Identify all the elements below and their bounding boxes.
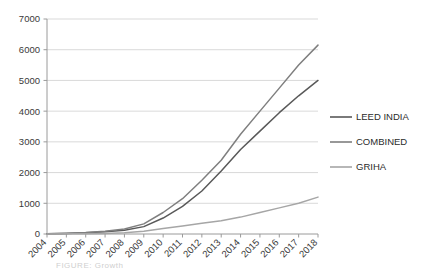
x-tick-label: 2008	[103, 237, 126, 260]
y-tick-label: 4000	[19, 106, 40, 117]
x-tick-label: 2009	[122, 237, 145, 260]
chart-legend: LEED INDIACOMBINEDGRIHA	[330, 111, 409, 172]
x-tick-label: 2010	[142, 237, 165, 260]
x-tick-label: 2005	[45, 237, 68, 260]
y-tick-label: 6000	[19, 44, 40, 55]
x-tick-label: 2004	[26, 237, 49, 260]
x-tick-label: 2016	[258, 237, 281, 260]
figure-caption: FIGURE: Growth	[56, 261, 123, 272]
x-axis	[47, 234, 318, 238]
legend-label: LEED INDIA	[356, 111, 409, 122]
x-tick-label: 2006	[64, 237, 87, 260]
y-axis-tick-labels: 01000200030004000500060007000	[19, 13, 40, 239]
x-axis-tick-labels: 2004200520062007200820092010201120122013…	[26, 237, 320, 260]
series-line	[47, 80, 318, 233]
y-tick-label: 1000	[19, 198, 40, 209]
x-tick-label: 2017	[277, 237, 300, 260]
legend-label: GRIHA	[356, 161, 387, 172]
x-tick-label: 2013	[200, 237, 223, 260]
series-line	[47, 197, 318, 234]
x-tick-label: 2011	[162, 237, 184, 259]
y-tick-label: 7000	[19, 13, 40, 24]
y-tick-label: 3000	[19, 136, 40, 147]
x-tick-label: 2012	[181, 237, 204, 260]
gridlines	[47, 19, 318, 203]
x-tick-label: 2007	[84, 237, 107, 260]
x-tick-label: 2018	[297, 237, 320, 260]
series-lines	[47, 45, 318, 234]
y-tick-label: 2000	[19, 167, 40, 178]
x-tick-label: 2014	[219, 237, 242, 260]
legend-label: COMBINED	[356, 136, 407, 147]
y-axis	[44, 19, 48, 234]
chart-canvas: 01000200030004000500060007000 2004200520…	[0, 0, 439, 273]
line-chart: 01000200030004000500060007000 2004200520…	[0, 0, 439, 273]
x-tick-label: 2015	[239, 237, 262, 260]
y-tick-label: 5000	[19, 75, 40, 86]
